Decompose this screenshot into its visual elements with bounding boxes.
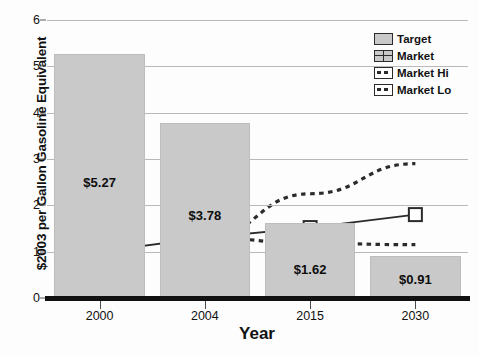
bar-value-label-2030: $0.91	[399, 272, 432, 287]
x-tick-label-2004: 2004	[191, 309, 219, 323]
x-tick-mark	[205, 301, 206, 309]
legend-item-market[interactable]: Market	[374, 49, 451, 62]
legend-item-target[interactable]: Target	[374, 32, 451, 45]
x-axis-title: Year	[47, 324, 467, 344]
x-axis-line	[45, 296, 470, 301]
legend-item-market-hi[interactable]: Market Hi	[374, 66, 451, 79]
x-tick-label-2030: 2030	[401, 309, 429, 323]
legend-label: Market Hi	[397, 67, 449, 79]
x-tick-label-2000: 2000	[86, 309, 114, 323]
y-tick-label: 4	[33, 106, 40, 120]
legend-item-market-lo[interactable]: Market Lo	[374, 83, 451, 96]
bar-2015[interactable]	[265, 223, 356, 298]
market-marker[interactable]	[409, 208, 422, 221]
legend-swatch-solid-fill-icon	[374, 33, 393, 45]
bar-value-label-2004: $3.78	[189, 208, 222, 223]
x-tick-mark	[310, 301, 311, 309]
legend-label: Market Lo	[397, 84, 451, 96]
bar-value-label-2015: $1.62	[294, 262, 327, 277]
y-tick-mark	[40, 205, 46, 206]
y-tick-mark	[40, 66, 46, 67]
y-tick-label: 2	[33, 198, 40, 212]
y-tick-label: 1	[33, 245, 40, 259]
y-tick-label: 0	[33, 291, 40, 305]
bar-value-label-2000: $5.27	[83, 175, 116, 190]
y-tick-mark	[40, 251, 46, 252]
y-tick-label: 3	[33, 152, 40, 166]
x-tick-mark	[100, 301, 101, 309]
legend-swatch-dashed-line-icon	[374, 67, 393, 79]
gridline	[47, 20, 468, 21]
legend-label: Market	[397, 50, 434, 62]
y-tick-mark	[40, 112, 46, 113]
legend-swatch-dashed-line-icon	[374, 84, 393, 96]
chart-container: $2003 per Gallon Gasoline Equivalent 012…	[0, 0, 479, 357]
y-tick-mark	[40, 159, 46, 160]
y-tick-label: 6	[33, 13, 40, 27]
y-tick-mark	[40, 20, 46, 21]
legend-swatch-grid-box-icon	[374, 50, 393, 62]
legend: TargetMarketMarket HiMarket Lo	[374, 32, 451, 96]
y-tick-label: 5	[33, 59, 40, 73]
x-tick-mark	[415, 301, 416, 309]
legend-label: Target	[397, 33, 431, 45]
x-tick-label-2015: 2015	[296, 309, 324, 323]
